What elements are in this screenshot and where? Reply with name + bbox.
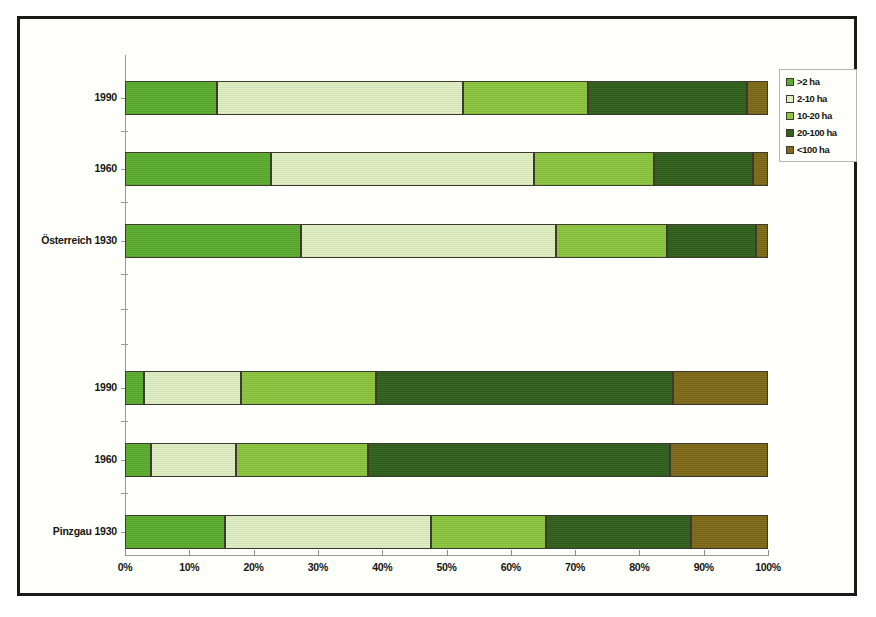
x-axis-tick-label: 40% [352,561,412,573]
x-axis-tick [254,550,255,556]
bar-segment [125,224,301,258]
plot-area: 0%10%20%30%40%50%60%70%80%90%100% [125,43,768,553]
y-axis-line [125,55,126,555]
legend-item[interactable]: 2-10 ha [786,93,851,104]
y-axis-minor-tick [121,309,128,310]
bar-segment [125,371,144,405]
y-axis-minor-tick [121,274,128,275]
bar-segment [271,152,534,186]
bar-segment [670,443,768,477]
x-axis-tick [639,550,640,556]
x-axis-tick [382,550,383,556]
x-axis-tick-label: 50% [417,561,477,573]
chart-legend: >2 ha2-10 ha10-20 ha20-100 ha<100 ha [779,69,857,162]
bar-segment [556,224,667,258]
legend-item[interactable]: >2 ha [786,76,851,87]
x-axis-tick [704,550,705,556]
legend-swatch-icon [786,146,794,154]
y-axis-category-label: Österreich 1930 [20,234,117,246]
bar-row [125,515,768,549]
x-axis-tick-label: 60% [481,561,541,573]
bar-segment [431,515,546,549]
y-axis-category-label: 1960 [20,453,117,465]
x-axis-tick-label: 80% [609,561,669,573]
y-axis-minor-tick [121,202,128,203]
legend-swatch-icon [786,112,794,120]
legend-label: >2 ha [797,76,820,87]
bar-segment [144,371,240,405]
bar-row [125,371,768,405]
bar-row [125,443,768,477]
bar-segment [753,152,768,186]
bar-row [125,81,768,115]
bar-segment [654,152,753,186]
legend-label: 2-10 ha [797,93,827,104]
legend-item[interactable]: 20-100 ha [786,127,851,138]
legend-label: 20-100 ha [797,127,837,138]
x-axis-tick [189,550,190,556]
bar-segment [368,443,670,477]
y-axis-category-label: Pinzgau 1930 [20,525,117,537]
legend-label: 10-20 ha [797,110,832,121]
y-axis-minor-tick [121,344,128,345]
x-axis-tick-label: 90% [674,561,734,573]
y-axis-category-label: 1990 [20,381,117,393]
bar-segment [463,81,588,115]
bar-segment [747,81,768,115]
bar-segment [673,371,768,405]
bar-segment [225,515,431,549]
x-axis-tick-label: 30% [288,561,348,573]
bar-segment [301,224,556,258]
bar-segment [125,515,225,549]
bar-segment [236,443,368,477]
y-axis-minor-tick [121,131,128,132]
bar-segment [667,224,756,258]
bar-segment [125,443,151,477]
bar-segment [691,515,768,549]
x-axis-tick-label: 0% [95,561,155,573]
bar-segment [151,443,237,477]
legend-swatch-icon [786,78,794,86]
bar-segment [588,81,747,115]
y-axis-minor-tick [121,421,128,422]
bar-segment [241,371,376,405]
bar-row [125,152,768,186]
bar-row [125,224,768,258]
x-axis-tick-label: 70% [545,561,605,573]
y-axis-minor-tick [121,493,128,494]
x-axis-tick [768,550,769,556]
x-axis-tick-label: 10% [159,561,219,573]
bar-segment [125,152,271,186]
legend-swatch-icon [786,95,794,103]
x-axis-tick-label: 100% [738,561,798,573]
bar-segment [534,152,654,186]
chart-frame: 0%10%20%30%40%50%60%70%80%90%100% 199019… [17,16,857,596]
legend-item[interactable]: 10-20 ha [786,110,851,121]
x-axis-tick [125,550,126,556]
x-axis-tick-label: 20% [224,561,284,573]
x-axis-tick [318,550,319,556]
bar-segment [756,224,768,258]
bar-segment [125,81,217,115]
legend-label: <100 ha [797,144,829,155]
bar-segment [376,371,674,405]
x-axis-tick [447,550,448,556]
y-axis-category-label: 1990 [20,91,117,103]
bar-segment [217,81,463,115]
x-axis-tick [575,550,576,556]
legend-swatch-icon [786,129,794,137]
bar-segment [546,515,691,549]
x-axis-tick [511,550,512,556]
y-axis-category-label: 1960 [20,162,117,174]
legend-item[interactable]: <100 ha [786,144,851,155]
